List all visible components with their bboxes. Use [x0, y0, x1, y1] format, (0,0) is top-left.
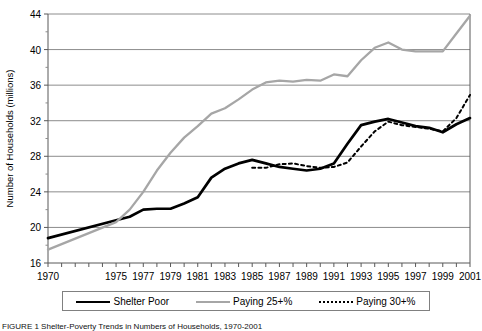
- svg-text:2001: 2001: [459, 271, 482, 282]
- y-axis-title: Number of Households (millions): [4, 70, 15, 208]
- chart-area: 1620242832364044 19701975197719791981198…: [0, 0, 482, 285]
- legend-item-paying-25: Paying 25+%: [196, 296, 292, 307]
- svg-text:1975: 1975: [105, 271, 128, 282]
- svg-text:1987: 1987: [268, 271, 291, 282]
- figure-caption: FIGURE 1 Shelter-Poverty Trends in Numbe…: [2, 322, 480, 331]
- svg-text:1983: 1983: [214, 271, 237, 282]
- svg-text:16: 16: [30, 258, 42, 269]
- svg-text:Number of Households (millions: Number of Households (millions): [4, 70, 15, 208]
- data-series: [48, 16, 470, 250]
- svg-text:28: 28: [30, 151, 42, 162]
- svg-text:36: 36: [30, 80, 42, 91]
- series-line-shelter-poor: [48, 118, 470, 238]
- svg-text:1985: 1985: [241, 271, 264, 282]
- svg-text:44: 44: [30, 9, 42, 20]
- svg-text:1997: 1997: [404, 271, 427, 282]
- x-axis-ticks: 1970197519771979198119831985198719891991…: [37, 263, 482, 282]
- svg-text:1989: 1989: [296, 271, 319, 282]
- svg-text:20: 20: [30, 222, 42, 233]
- svg-text:1977: 1977: [132, 271, 155, 282]
- figure-container: 1620242832364044 19701975197719791981198…: [0, 0, 482, 331]
- svg-text:24: 24: [30, 187, 42, 198]
- legend-swatch-solid-black-icon: [76, 296, 110, 306]
- svg-text:1991: 1991: [323, 271, 346, 282]
- svg-text:1995: 1995: [377, 271, 400, 282]
- legend-label-shelter-poor: Shelter Poor: [113, 296, 169, 307]
- legend-label-paying-25: Paying 25+%: [233, 296, 292, 307]
- legend-item-paying-30: Paying 30+%: [319, 296, 415, 307]
- gridlines: [48, 14, 470, 227]
- svg-text:1993: 1993: [350, 271, 373, 282]
- svg-text:32: 32: [30, 116, 42, 127]
- legend-swatch-solid-gray-icon: [196, 296, 230, 306]
- series-line-paying-25: [48, 16, 470, 250]
- chart-legend: Shelter Poor Paying 25+% Paying 30+%: [62, 291, 430, 311]
- svg-text:40: 40: [30, 45, 42, 56]
- svg-text:1981: 1981: [187, 271, 210, 282]
- legend-swatch-dotted-black-icon: [319, 296, 353, 306]
- svg-text:1970: 1970: [37, 271, 60, 282]
- legend-item-shelter-poor: Shelter Poor: [76, 296, 169, 307]
- svg-text:1999: 1999: [432, 271, 455, 282]
- svg-text:1979: 1979: [159, 271, 182, 282]
- legend-label-paying-30: Paying 30+%: [356, 296, 415, 307]
- y-axis-ticks: 1620242832364044: [30, 9, 48, 269]
- line-chart: 1620242832364044 19701975197719791981198…: [0, 0, 482, 285]
